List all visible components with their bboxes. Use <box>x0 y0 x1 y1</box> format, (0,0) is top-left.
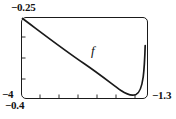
x-axis-min-label: −0.4 <box>5 99 24 111</box>
y-axis-max-label: −0.25 <box>11 1 36 13</box>
function-label-f: f <box>91 43 95 59</box>
graph-screenshot: −0.25 −4 −0.4 −1.3 f <box>0 0 176 119</box>
x-axis-max-label: −1.3 <box>152 89 171 101</box>
plot-frame <box>21 17 148 99</box>
